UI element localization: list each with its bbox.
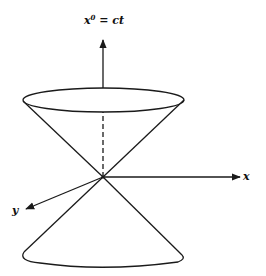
y-axis-label: y bbox=[11, 204, 20, 217]
past-cone-left-edge bbox=[24, 177, 103, 252]
origin-point bbox=[101, 175, 104, 178]
x-axis-label: x bbox=[242, 170, 250, 183]
past-cone-rim bbox=[23, 252, 184, 267]
light-cone-diagram: x0 = ct x y bbox=[0, 0, 266, 276]
future-cone-rim bbox=[23, 88, 184, 112]
y-axis bbox=[26, 177, 103, 209]
time-axis-label: x0 = ct bbox=[83, 13, 124, 27]
past-cone-right-edge bbox=[103, 177, 182, 255]
